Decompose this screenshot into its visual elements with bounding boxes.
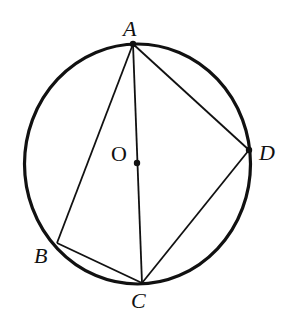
point-a bbox=[130, 41, 136, 47]
point-d bbox=[246, 147, 252, 153]
segment-cd bbox=[142, 150, 249, 283]
label-a: A bbox=[121, 16, 137, 41]
geometry-diagram: A B C D O bbox=[0, 0, 293, 318]
point-o bbox=[134, 160, 140, 166]
label-b: B bbox=[34, 243, 47, 268]
label-c: C bbox=[131, 288, 146, 313]
label-d: D bbox=[258, 140, 275, 165]
label-o: O bbox=[111, 141, 127, 166]
